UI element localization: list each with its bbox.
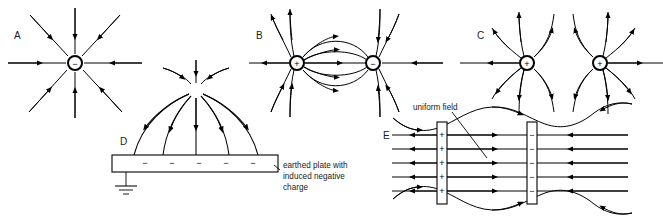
earth-ground-icon xyxy=(115,172,137,194)
charge-negative-b: − xyxy=(366,56,380,70)
caption-line-1: earthed plate with xyxy=(283,161,348,170)
plate-sign: − xyxy=(142,158,147,168)
plate-sign: + xyxy=(439,144,444,154)
panel-b: B xyxy=(249,9,443,117)
charge-positive-c-left: + xyxy=(520,56,534,70)
plate-sign: − xyxy=(529,144,534,154)
panel-a-label: A xyxy=(14,30,21,41)
panel-c-field-lines xyxy=(460,12,663,114)
plate-sign: − xyxy=(529,186,534,196)
plate-sign: − xyxy=(529,172,534,182)
plate-sign: − xyxy=(250,158,255,168)
charge-sign: + xyxy=(597,59,602,69)
plate-sign: − xyxy=(223,158,228,168)
uniform-field-label: uniform field xyxy=(413,103,458,112)
electric-field-diagram-figure: A − B xyxy=(0,0,663,217)
capacitor-plate-negative: − − − − − xyxy=(527,122,537,204)
plate-sign: − xyxy=(169,158,174,168)
panel-a: A − xyxy=(8,8,142,118)
panel-d-label: D xyxy=(120,136,127,147)
plate-sign: + xyxy=(439,186,444,196)
panel-b-label: B xyxy=(256,30,263,41)
charge-sign: + xyxy=(294,59,299,69)
panel-e-label: E xyxy=(383,130,390,141)
panel-e: E xyxy=(383,103,632,214)
panel-e-uniform-field-lines xyxy=(392,135,628,191)
charge-negative-a: − xyxy=(68,56,82,70)
panel-d: D − − − − − xyxy=(112,60,348,194)
panel-c-label: C xyxy=(477,30,484,41)
caption-line-3: charge xyxy=(283,183,308,192)
plate-sign: − xyxy=(196,158,201,168)
charge-sign: − xyxy=(72,59,77,69)
plate-sign: − xyxy=(529,158,534,168)
panel-c: C xyxy=(460,12,663,114)
plate-sign: + xyxy=(439,172,444,182)
caption-line-2: induced negative xyxy=(283,172,345,181)
panel-b-field-lines xyxy=(249,9,443,117)
charge-sign: − xyxy=(370,59,375,69)
charge-positive-c-right: + xyxy=(593,56,607,70)
figure-canvas: A − B xyxy=(0,0,663,217)
earthed-plate-caption: earthed plate with induced negative char… xyxy=(274,161,348,192)
capacitor-plate-positive: + + + + + xyxy=(437,122,447,204)
charge-sign: + xyxy=(524,59,529,69)
charge-positive-b: + xyxy=(290,56,304,70)
earthed-plate: − − − − − xyxy=(112,155,278,172)
plate-sign: + xyxy=(439,158,444,168)
panel-e-fringe-lines xyxy=(393,103,632,214)
panel-d-field-lines xyxy=(134,60,258,155)
plate-sign: − xyxy=(529,130,534,140)
plate-sign: + xyxy=(439,130,444,140)
